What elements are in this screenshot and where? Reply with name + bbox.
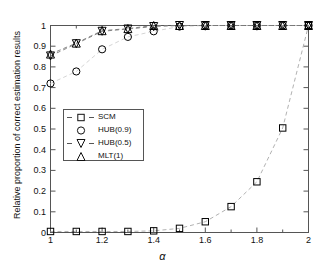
legend-item-hub-0-9[interactable]: HUB(0.9)	[64, 123, 145, 136]
triangle-up-marker-icon	[66, 149, 96, 162]
y-axis-label: Relative proportion of correct estimatio…	[12, 20, 22, 230]
y-tick-label: 0.9	[22, 41, 46, 51]
x-tick-label: 1.4	[147, 235, 160, 245]
y-tick-label: 0.4	[22, 145, 46, 155]
chart-legend[interactable]: SCMHUB(0.9)HUB(0.5)MLT(1)	[63, 109, 144, 161]
legend-label: HUB(0.9)	[98, 123, 131, 136]
triangle-down-marker-icon	[66, 136, 96, 149]
y-tick-label: 0.8	[22, 62, 46, 72]
legend-label: MLT(1)	[98, 149, 123, 162]
x-axis-label: α	[0, 250, 325, 262]
circle-marker-icon	[66, 123, 96, 136]
chart-figure	[0, 0, 325, 269]
y-tick-label: 0.7	[22, 83, 46, 93]
x-tick-label: 1.6	[199, 235, 212, 245]
legend-item-scm[interactable]: SCM	[64, 110, 145, 123]
x-tick-label: 1	[48, 235, 53, 245]
x-tick-label: 1.8	[251, 235, 264, 245]
x-tick-label: 1.2	[96, 235, 109, 245]
legend-item-mlt-1[interactable]: MLT(1)	[64, 149, 145, 162]
y-tick-label: 0.2	[22, 186, 46, 196]
y-tick-label: 1	[22, 21, 46, 31]
legend-label: HUB(0.5)	[98, 136, 131, 149]
legend-item-hub-0-5[interactable]: HUB(0.5)	[64, 136, 145, 149]
y-tick-label: 0.3	[22, 165, 46, 175]
square-marker-icon	[66, 110, 96, 123]
y-tick-label: 0.5	[22, 124, 46, 134]
x-tick-label: 2	[306, 235, 311, 245]
y-tick-label: 0	[22, 228, 46, 238]
y-tick-label: 0.1	[22, 207, 46, 217]
y-tick-label: 0.6	[22, 103, 46, 113]
legend-label: SCM	[98, 110, 116, 123]
